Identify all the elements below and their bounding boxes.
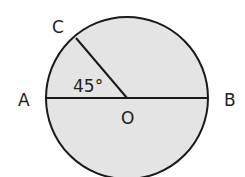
circle-diagram: C A B O 45° <box>0 0 245 177</box>
label-B: B <box>224 90 236 110</box>
label-A: A <box>18 90 30 110</box>
angle-label: 45° <box>73 76 103 96</box>
label-C: C <box>52 17 64 37</box>
diagram-canvas: C A B O 45° <box>0 0 245 177</box>
label-O: O <box>121 108 134 128</box>
